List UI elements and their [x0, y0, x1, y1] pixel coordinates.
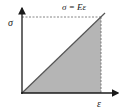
equation-label: σ = Eε — [62, 2, 87, 12]
stress-strain-diagram: σ = Eε σ ε — [0, 0, 123, 111]
x-axis-label: ε — [97, 98, 101, 109]
y-axis-label: σ — [8, 17, 14, 28]
